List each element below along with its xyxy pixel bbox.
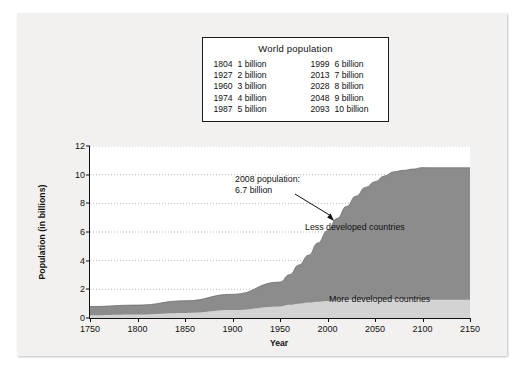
x-tick-label: 2150 (460, 324, 480, 334)
x-tick-mark (90, 318, 91, 322)
x-tick-mark (280, 318, 281, 322)
fact-value-right: 10 billion (330, 104, 385, 115)
y-tick-mark (86, 174, 90, 175)
y-tick-label: 10 (75, 170, 85, 180)
fact-year-left: 1987 (207, 104, 233, 115)
fact-box-table: 1804 1 billion 1999 6 billion 1927 2 bil… (207, 58, 385, 115)
chart-plot-area: Less developed countries More developed … (89, 146, 469, 318)
fact-gap (288, 104, 304, 115)
x-tick-mark (470, 318, 471, 322)
fact-year-left: 1974 (207, 92, 233, 103)
fact-value-right: 9 billion (330, 92, 385, 103)
area-chart-svg (90, 146, 470, 318)
y-axis-title: Population (in billions) (37, 146, 49, 318)
chart-canvas: Less developed countries More developed … (89, 146, 470, 319)
fact-value-right: 6 billion (330, 58, 385, 69)
y-tick-label: 4 (80, 256, 85, 266)
callout-arrow-icon (295, 194, 331, 216)
y-tick-label: 12 (75, 141, 85, 151)
fact-value-left: 2 billion (233, 69, 288, 80)
fact-year-left: 1960 (207, 81, 233, 92)
x-tick-label: 1900 (222, 324, 242, 334)
table-row: 1987 5 billion 2093 10 billion (207, 104, 385, 115)
x-tick-label: 2000 (317, 324, 337, 334)
y-tick-mark (86, 232, 90, 233)
x-tick-label: 1850 (175, 324, 195, 334)
area-label-more-developed: More developed countries (329, 294, 430, 304)
fact-value-right: 8 billion (330, 81, 385, 92)
y-tick-mark (86, 289, 90, 290)
fact-gap (288, 69, 304, 80)
x-tick-mark (233, 318, 234, 322)
fact-value-left: 4 billion (233, 92, 288, 103)
population-callout-line2: 6.7 billion (235, 185, 300, 196)
x-tick-mark (328, 318, 329, 322)
fact-year-right: 2028 (304, 81, 330, 92)
x-tick-mark (138, 318, 139, 322)
fact-gap (288, 92, 304, 103)
x-tick-label: 2100 (412, 324, 432, 334)
x-tick-label: 1800 (127, 324, 147, 334)
x-tick-label: 1750 (80, 324, 100, 334)
population-callout: 2008 population: 6.7 billion (235, 174, 300, 197)
x-axis-title: Year (89, 338, 469, 348)
fact-gap (288, 58, 304, 69)
y-tick-label: 6 (80, 227, 85, 237)
table-row: 1960 3 billion 2028 8 billion (207, 81, 385, 92)
fact-year-right: 2013 (304, 69, 330, 80)
y-tick-label: 2 (80, 284, 85, 294)
x-tick-label: 1950 (270, 324, 290, 334)
table-row: 1804 1 billion 1999 6 billion (207, 58, 385, 69)
fact-year-left: 1804 (207, 58, 233, 69)
fact-value-left: 5 billion (233, 104, 288, 115)
world-population-fact-box: World population 1804 1 billion 1999 6 b… (202, 37, 389, 122)
table-row: 1974 4 billion 2048 9 billion (207, 92, 385, 103)
figure-panel: World population 1804 1 billion 1999 6 b… (17, 13, 507, 356)
y-tick-label: 8 (80, 198, 85, 208)
x-tick-label: 2050 (365, 324, 385, 334)
fact-year-right: 2048 (304, 92, 330, 103)
table-row: 1927 2 billion 2013 7 billion (207, 69, 385, 80)
fact-year-right: 1999 (304, 58, 330, 69)
fact-year-left: 1927 (207, 69, 233, 80)
population-callout-line1: 2008 population: (235, 174, 300, 185)
y-tick-mark (86, 146, 90, 147)
fact-gap (288, 81, 304, 92)
fact-value-left: 3 billion (233, 81, 288, 92)
y-tick-mark (86, 203, 90, 204)
y-tick-mark (86, 260, 90, 261)
fact-value-right: 7 billion (330, 69, 385, 80)
y-tick-label: 0 (80, 313, 85, 323)
x-tick-mark (185, 318, 186, 322)
x-tick-mark (375, 318, 376, 322)
fact-box-title: World population (203, 43, 388, 54)
fact-value-left: 1 billion (233, 58, 288, 69)
area-label-less-developed: Less developed countries (305, 222, 405, 232)
x-tick-mark (423, 318, 424, 322)
fact-year-right: 2093 (304, 104, 330, 115)
